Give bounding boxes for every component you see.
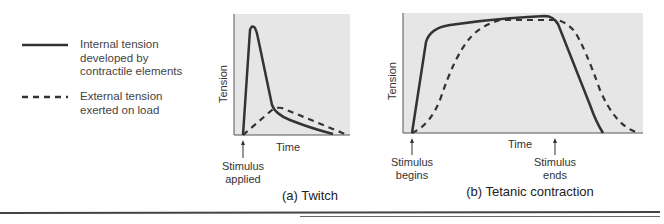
bottom-rule-thick [0, 212, 660, 213]
arrowhead-icon [410, 138, 414, 143]
tetanic-xlabel: Time [500, 138, 540, 151]
twitch-plot [234, 14, 350, 158]
tetanic-ylabel: Tension [386, 62, 398, 100]
arrowhead-icon [553, 138, 557, 143]
annotation-line: Stimulus [525, 156, 585, 169]
tetanic-begin-label: Stimulus begins [382, 156, 442, 182]
tetanic-plot [403, 13, 643, 155]
annotation-line: applied [213, 173, 273, 186]
twitch-plot-area [234, 14, 350, 135]
twitch-xlabel: Time [268, 141, 308, 154]
twitch-caption: (a) Twitch [250, 188, 370, 203]
arrowhead-icon [241, 140, 245, 145]
annotation-line: Stimulus [213, 160, 273, 173]
annotation-line: Stimulus [382, 156, 442, 169]
annotation-line: ends [525, 169, 585, 182]
annotation-line: begins [382, 169, 442, 182]
twitch-stimulus-label: Stimulus applied [213, 160, 273, 186]
tetanic-plot-area [403, 13, 643, 133]
twitch-ylabel: Tension [217, 65, 229, 103]
tetanic-end-label: Stimulus ends [525, 156, 585, 182]
tetanic-caption: (b) Tetanic contraction [430, 184, 630, 199]
